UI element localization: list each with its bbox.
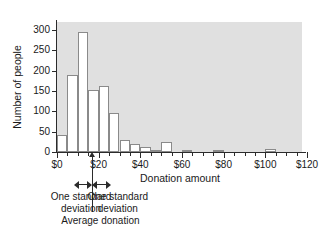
x-axis-minor-tick <box>213 152 214 156</box>
x-axis-minor-tick <box>67 152 68 156</box>
histogram-bar <box>78 32 88 152</box>
y-axis-tick <box>52 91 56 92</box>
x-axis-major-tick <box>224 152 225 158</box>
y-axis-tick-label-text: 300 <box>22 25 50 35</box>
arrow-head-left-icon <box>92 181 97 189</box>
x-axis-major-tick <box>57 152 58 158</box>
x-axis-minor-tick <box>276 152 277 156</box>
x-axis-minor-tick <box>172 152 173 156</box>
y-axis-tick-label: 200 <box>20 66 50 76</box>
x-axis-minor-tick <box>120 152 121 156</box>
y-axis-tick-label: 100 <box>20 106 50 116</box>
y-axis-tick-label-text: 50 <box>22 127 50 137</box>
y-axis-tick <box>52 132 56 133</box>
arrow-head-left-icon <box>74 181 79 189</box>
y-axis-tick-label-text: 250 <box>22 45 50 55</box>
x-axis-major-tick <box>182 152 183 158</box>
y-axis-tick-label: 150 <box>20 86 50 96</box>
x-axis-minor-tick <box>192 152 193 156</box>
y-axis-tick-label-text: 150 <box>22 86 50 96</box>
x-axis-minor-tick <box>151 152 152 156</box>
histogram-bar <box>99 86 109 152</box>
x-axis-tick-label: $100 <box>254 159 276 170</box>
average-donation-caret-icon <box>89 152 95 157</box>
histogram-bar <box>57 135 67 152</box>
sd-label-right-line: One standard <box>87 191 148 203</box>
x-axis-minor-tick <box>203 152 204 156</box>
y-axis-tick <box>52 30 56 31</box>
x-axis-tick-label: $120 <box>296 159 318 170</box>
x-axis-tick-label: $40 <box>132 159 149 170</box>
x-axis-minor-tick <box>297 152 298 156</box>
average-donation-label-line: Average donation <box>61 215 139 227</box>
y-axis-tick-label: 50 <box>20 127 50 137</box>
histogram-bar <box>130 144 140 152</box>
histogram-bar <box>161 142 171 152</box>
x-axis-tick-label: $0 <box>51 159 62 170</box>
x-axis-minor-tick <box>245 152 246 156</box>
y-axis-tick-label: 0 <box>20 147 50 157</box>
x-axis-minor-tick <box>255 152 256 156</box>
sd-arrow-left <box>74 180 93 189</box>
y-axis-tick <box>52 111 56 112</box>
y-axis-tick <box>52 71 56 72</box>
x-axis-major-tick <box>307 152 308 158</box>
histogram-bar <box>109 113 119 152</box>
x-axis-major-tick <box>265 152 266 158</box>
sd-label-right-line: deviation <box>87 203 148 215</box>
arrow-head-right-icon <box>106 181 111 189</box>
histogram-bar <box>67 75 77 152</box>
x-axis-minor-tick <box>109 152 110 156</box>
x-axis-minor-tick <box>234 152 235 156</box>
y-axis-tick <box>52 50 56 51</box>
x-axis-tick-label: $60 <box>174 159 191 170</box>
histogram-bar <box>120 140 130 152</box>
sd-label-right: One standarddeviation <box>87 191 148 214</box>
y-axis-tick <box>52 152 56 153</box>
y-axis-tick-label-text: 0 <box>22 147 50 157</box>
y-axis-tick-label-text: 200 <box>22 66 50 76</box>
x-axis-minor-tick <box>78 152 79 156</box>
y-axis-tick-label: 250 <box>20 45 50 55</box>
chart-root: Number of people 050100150200250300 $0$2… <box>0 0 332 238</box>
x-axis-minor-tick <box>130 152 131 156</box>
x-axis-major-tick <box>99 152 100 158</box>
y-axis-tick-label-text: 100 <box>22 106 50 116</box>
x-axis-major-tick <box>140 152 141 158</box>
sd-arrow-right <box>92 180 111 189</box>
x-axis-title: Donation amount <box>140 172 220 184</box>
x-axis-minor-tick <box>161 152 162 156</box>
y-axis-tick-label: 300 <box>20 25 50 35</box>
average-donation-label: Average donation <box>61 215 139 227</box>
y-axis-line <box>56 20 57 153</box>
histogram-bar <box>88 90 98 152</box>
x-axis-tick-label: $80 <box>215 159 232 170</box>
plot-area <box>57 22 302 152</box>
x-axis-minor-tick <box>286 152 287 156</box>
